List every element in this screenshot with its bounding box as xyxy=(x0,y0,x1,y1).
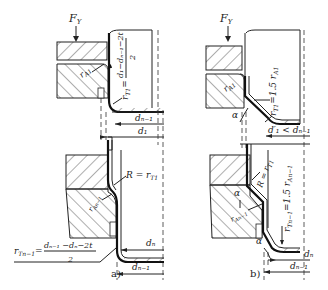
dim-dn-a: dₙ xyxy=(146,238,156,248)
svg-text:2: 2 xyxy=(128,55,137,61)
blank-holder-b xyxy=(206,46,242,70)
alpha-mid-b: α xyxy=(234,188,240,198)
workpiece-a2 xyxy=(108,140,164,262)
r-t1-eq-b: rT1=1.5 rA1 xyxy=(268,67,279,116)
panel-a: FY rA1 rT1= d₁−dₙ₋₁−2t 2 xyxy=(14,12,164,280)
r-tn-eq-b: rTn−1=1.5 rAn−1 xyxy=(282,165,293,232)
alpha-bottom-b: α xyxy=(256,236,262,246)
r-t1-formula-a: rT1= d₁−dₙ₋₁−2t 2 xyxy=(116,31,137,100)
caption-a: a) xyxy=(111,268,121,279)
r-tn-formula-a: rTn−1= dₙ₋₁ −dₙ−2t 2 xyxy=(14,241,116,264)
R-eq-label-a: R = rT1 xyxy=(125,170,158,181)
dim-d1prime-b: d′₁ < dₙ₋₁ xyxy=(268,125,310,135)
dim-dn-b: dₙ xyxy=(304,249,314,259)
panel-b: FY rA1 rT1=1.5 rA1 α xyxy=(206,12,314,280)
svg-text:d₁−dₙ₋₁−2t: d₁−dₙ₋₁−2t xyxy=(116,31,125,78)
svg-text:rT1=: rT1= xyxy=(120,80,131,100)
punch-a2 xyxy=(121,150,164,258)
force-label-a: FY xyxy=(68,12,83,26)
blank-holder-a xyxy=(57,42,107,60)
svg-text:dₙ₋₁ −dₙ−2t: dₙ₋₁ −dₙ−2t xyxy=(44,241,93,250)
blank-holder-lower-b xyxy=(210,155,250,185)
svg-text:rTn−1=1.5 rAn−1: rTn−1=1.5 rAn−1 xyxy=(282,165,293,232)
force-arrow-b xyxy=(225,26,231,42)
dim-d1-a: d₁ xyxy=(138,126,147,136)
svg-text:rT1=1.5 rA1: rT1=1.5 rA1 xyxy=(268,67,279,116)
caption-b: b) xyxy=(250,268,260,279)
force-arrow-a xyxy=(73,26,79,42)
dim-dn1-bottom-a: dₙ₋₁ xyxy=(132,262,150,272)
deep-drawing-diagram: FY rA1 rT1= d₁−dₙ₋₁−2t 2 xyxy=(0,0,328,290)
force-label-b: FY xyxy=(219,12,234,26)
blank-holder-lower-a xyxy=(66,155,108,189)
dim-dn1-top-a: dₙ₋₁ xyxy=(135,113,153,123)
dim-dn1-b: dₙ₋₁ xyxy=(290,261,308,271)
svg-text:rTn−1=: rTn−1= xyxy=(14,246,43,257)
alpha-top-b: α xyxy=(232,110,238,120)
svg-text:2: 2 xyxy=(67,255,73,264)
